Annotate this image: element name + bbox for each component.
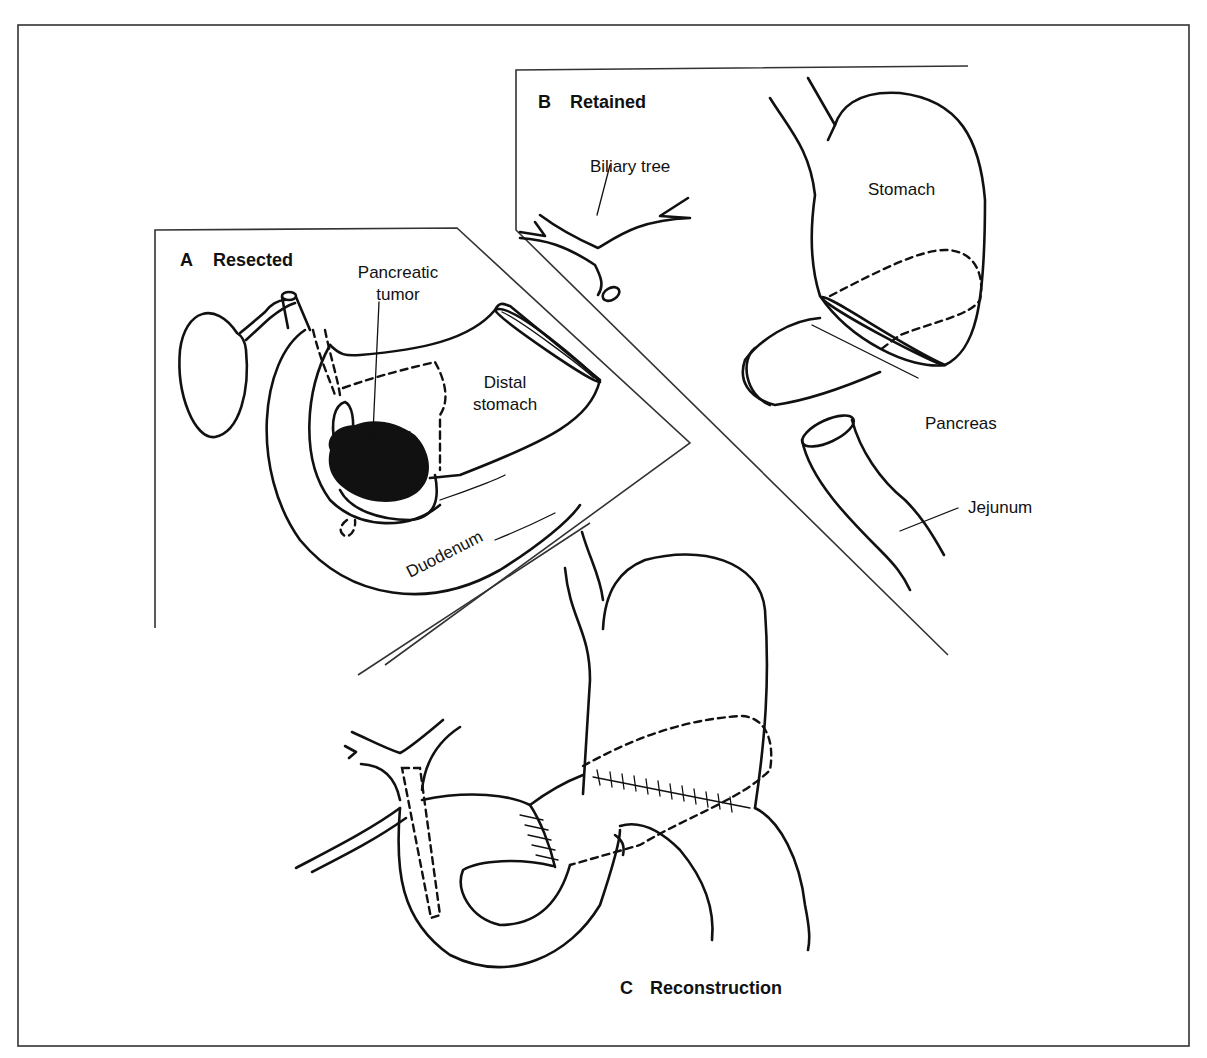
gallbladder [179,313,246,437]
efferent-limb-outer [755,808,809,950]
biliary-tree-c [345,720,460,800]
jejunum-opening [798,409,858,453]
panel-c-title: Reconstruction [650,978,782,998]
dashed-duct-end [341,520,356,536]
label-pancreas: Pancreas [925,414,997,433]
stomach-right-wall [603,554,767,808]
esophagus [808,78,835,140]
label-stomach-distal: stomach [473,395,537,414]
label-biliary-tree: Biliary tree [590,157,670,176]
pancreatic-tumor [329,421,429,502]
bile-duct [282,297,310,330]
duodenum-lines [440,475,555,540]
dashed-duct [313,330,340,395]
jejunal-loop-stomach-join [530,775,583,805]
panel-b: B Retained Biliary tree Pancreas Stomach… [520,78,1032,590]
pancreas-end [747,348,770,405]
label-jejunum: Jejunum [968,498,1032,517]
biliary-tree [520,198,690,295]
pancreas [743,318,880,405]
label-stomach-retained: Stomach [868,180,935,199]
stomach-cut-edge-b [822,297,945,365]
jejunal-loop-top [422,795,555,867]
stomach-cut-inner [502,312,594,378]
stomach-dashed-outline [830,250,981,350]
label-pancreatic: Pancreatic [358,263,439,282]
panel-c: C Reconstruction [296,532,809,998]
panel-c-letter: C [620,978,633,998]
esophagus-c [582,532,603,600]
jejunal-loop-inner [461,861,570,925]
label-duodenum: Duodenum [403,527,486,582]
stomach-retained [770,93,985,366]
bile-duct-stump [282,292,296,300]
stomach-left-wall [565,568,590,794]
biliary-stump [600,284,622,303]
panel-a-title: Resected [213,250,293,270]
jejunal-loop-outer [398,808,620,967]
cystic-duct [240,300,285,333]
panel-b-title: Retained [570,92,646,112]
label-distal: Distal [484,373,527,392]
jejunal-roux-limb [296,808,406,872]
label-tumor: tumor [376,285,420,304]
panel-a-letter: A [180,250,193,270]
jejunum-lower-wall [802,440,910,590]
panel-b-letter: B [538,92,551,112]
efferent-limb-inner [620,824,713,940]
panel-b-border [516,66,968,655]
surgical-diagram: A Resected Pancreatic [0,0,1207,1058]
